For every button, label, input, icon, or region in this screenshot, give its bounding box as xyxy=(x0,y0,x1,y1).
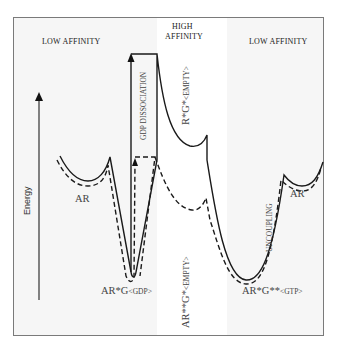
rg-empty-sub: <EMPTY> xyxy=(182,66,191,100)
arrg-empty-sub: <EMPTY> xyxy=(182,256,191,290)
low-affinity-right-label: LOW AFFINITY xyxy=(249,37,307,46)
uncoupling-label: UNCOUPLING xyxy=(265,203,274,252)
arg-gdp-main: AR*G xyxy=(101,285,128,296)
high-affinity-label-line1: HIGH xyxy=(172,22,193,31)
rg-empty-label: R*G*<EMPTY> xyxy=(180,66,191,125)
ar-right-label: AR xyxy=(290,188,305,199)
solid-energy-curve xyxy=(60,54,323,280)
energy-landscape xyxy=(0,0,337,351)
arrg-empty-label: AR**G*<EMPTY> xyxy=(180,256,191,328)
high-affinity-label-line2: AFFINITY xyxy=(165,32,203,41)
energy-axis-arrow xyxy=(35,92,43,300)
arg-gdp-label: AR*G<GDP> xyxy=(101,285,152,296)
ar-left-label: AR xyxy=(75,193,90,204)
low-affinity-left-label: LOW AFFINITY xyxy=(42,37,100,46)
arrg-empty-main: AR**G* xyxy=(180,290,191,328)
argg-gtp-label: AR*G**<GTP> xyxy=(242,285,303,296)
argg-gtp-main: AR*G** xyxy=(242,285,280,296)
gdp-dissociation-label: GDP DISSOCIATION xyxy=(139,72,148,140)
energy-axis-label: Energy xyxy=(22,186,32,215)
arg-gdp-sub: <GDP> xyxy=(128,287,151,296)
argg-gtp-sub: <GTP> xyxy=(280,287,303,296)
rg-empty-main: R*G* xyxy=(180,100,191,125)
